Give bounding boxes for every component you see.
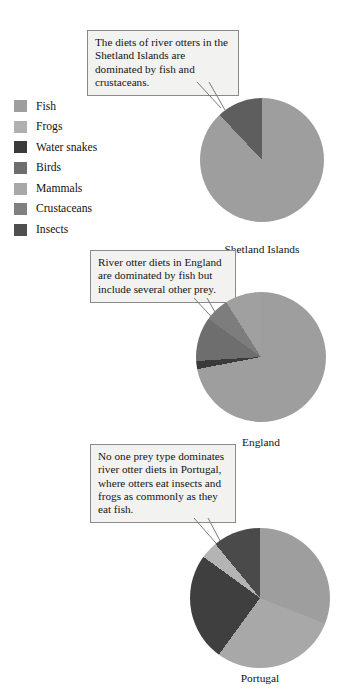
england-callout-text: River otter diets in England are dominat… [98, 256, 228, 296]
legend-label-water-snakes: Water snakes [36, 142, 97, 154]
england-callout: River otter diets in England are dominat… [90, 250, 236, 303]
legend-swatch-fish [14, 100, 27, 112]
pie-label-portugal: Portugal [190, 672, 330, 684]
legend: Fish Frogs Water snakes Birds Mammals Cr… [14, 96, 97, 240]
pie-portugal [190, 528, 330, 668]
legend-swatch-mammals [14, 183, 27, 195]
legend-item-mammals: Mammals [14, 178, 97, 199]
legend-item-birds: Birds [14, 158, 97, 179]
pie-shetland-islands [200, 98, 324, 222]
legend-item-insects: Insects [14, 220, 97, 241]
legend-label-crustaceans: Crustaceans [36, 203, 92, 215]
legend-label-insects: Insects [36, 224, 68, 236]
legend-item-water-snakes: Water snakes [14, 137, 97, 158]
shetland-callout-tail [195, 82, 231, 112]
legend-item-fish: Fish [14, 96, 97, 117]
legend-item-frogs: Frogs [14, 117, 97, 138]
legend-swatch-crustaceans [14, 203, 27, 215]
pie-england [196, 292, 326, 422]
legend-item-crustaceans: Crustaceans [14, 199, 97, 220]
legend-label-mammals: Mammals [36, 183, 82, 195]
legend-label-fish: Fish [36, 101, 56, 113]
legend-label-frogs: Frogs [36, 121, 62, 133]
legend-swatch-frogs [14, 121, 27, 133]
legend-swatch-birds [14, 162, 27, 174]
legend-swatch-insects [14, 224, 27, 236]
figure-canvas: Fish Frogs Water snakes Birds Mammals Cr… [0, 0, 354, 689]
portugal-callout: No one prey type dominates river otter d… [90, 444, 236, 523]
legend-swatch-water-snakes [14, 141, 27, 153]
portugal-callout-text: No one prey type dominates river otter d… [98, 450, 228, 516]
legend-label-birds: Birds [36, 162, 61, 174]
